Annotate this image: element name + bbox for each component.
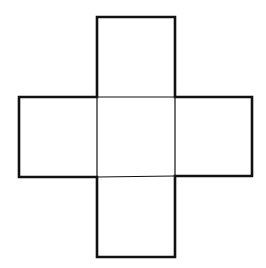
cross-net-diagram <box>0 0 266 268</box>
cross-outline <box>19 17 252 257</box>
edge-center-bottom <box>97 176 175 177</box>
